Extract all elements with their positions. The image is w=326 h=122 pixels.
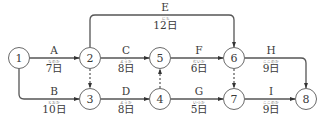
- activity-a-name: A: [49, 44, 58, 56]
- activity-h-duration: 9日: [263, 62, 280, 74]
- node-1: 1: [9, 48, 30, 69]
- activity-a-duration: 7日: [46, 62, 63, 74]
- activity-i-name: I: [269, 85, 273, 97]
- activity-g-duration: 5日: [191, 103, 208, 115]
- activity-i-duration: 9日: [263, 103, 280, 115]
- node-4: 4: [150, 89, 171, 110]
- activity-e-name: E: [161, 1, 169, 13]
- node-8: 8: [296, 89, 317, 110]
- activity-c-name: C: [122, 44, 130, 56]
- node-7-label: 7: [231, 93, 238, 106]
- node-6-label: 6: [231, 52, 238, 65]
- node-4-label: 4: [157, 93, 164, 106]
- node-5: 5: [150, 48, 171, 69]
- activity-b-name: B: [50, 85, 58, 97]
- activity-e-duration: 12日: [153, 19, 176, 31]
- arrow-network-diagram: A なのか 7日 B とおか 10日 C ようか 8日 D ようか 8日 E に…: [0, 0, 326, 122]
- activity-c-duration: 8日: [118, 62, 135, 74]
- node-7: 7: [224, 89, 245, 110]
- node-3: 3: [80, 89, 101, 110]
- activity-d-name: D: [122, 85, 130, 97]
- activity-d-duration: 8日: [118, 103, 135, 115]
- node-2: 2: [80, 48, 101, 69]
- dummy-edges: [90, 69, 234, 88]
- activity-f-name: F: [195, 44, 202, 56]
- activity-h-name: H: [266, 44, 275, 56]
- node-1-label: 1: [16, 52, 23, 65]
- node-3-label: 3: [87, 93, 94, 106]
- node-5-label: 5: [157, 52, 164, 65]
- node-8-label: 8: [303, 93, 310, 106]
- activity-g-name: G: [195, 85, 203, 97]
- activity-f-duration: 6日: [191, 62, 208, 74]
- activity-b-duration: 10日: [42, 103, 65, 115]
- node-6: 6: [224, 48, 245, 69]
- node-2-label: 2: [87, 52, 94, 65]
